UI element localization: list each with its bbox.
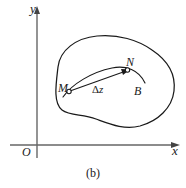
figure-caption: (b) (0, 166, 186, 181)
y-axis (34, 6, 40, 158)
delta-z-label: Δz (92, 84, 103, 95)
path-arc-through-M-N (63, 67, 145, 97)
region-label-B: B (134, 85, 141, 97)
region-boundary-curve (56, 36, 174, 128)
origin-label: O (22, 146, 31, 158)
y-axis-label: y (30, 2, 36, 15)
x-axis-label: x (172, 144, 178, 157)
point-label-M: M (58, 82, 68, 94)
x-axis (10, 142, 180, 148)
point-label-N: N (126, 56, 134, 68)
figure-container: y x O M N B Δz (b) (0, 0, 186, 188)
z-variable: z (99, 83, 103, 95)
